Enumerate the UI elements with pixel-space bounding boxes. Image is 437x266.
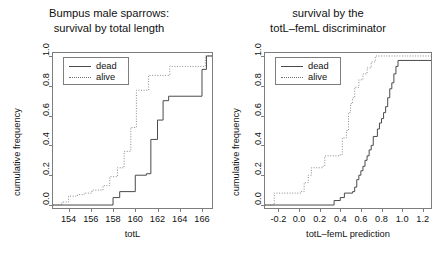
- legend-label-alive: alive: [96, 72, 115, 82]
- x-tick: [423, 209, 424, 212]
- title-line-2: survival by total length: [0, 21, 218, 36]
- y-tick: [261, 175, 264, 176]
- legend-right: dead alive: [275, 57, 341, 85]
- y-tick: [49, 175, 52, 176]
- x-tick: [91, 209, 92, 212]
- x-tick: [135, 209, 136, 212]
- x-tick: [69, 209, 70, 212]
- x-tick: [158, 209, 159, 212]
- legend-label-alive: alive: [308, 72, 327, 82]
- legend-key-dead-icon: [281, 66, 303, 67]
- panel-left: Bumpus male sparrows: survival by total …: [0, 0, 218, 266]
- legend-entry-dead-right: dead: [281, 61, 329, 71]
- panel-left-title: Bumpus male sparrows: survival by total …: [0, 6, 218, 36]
- panel-right: survival by the totL–femL discriminator …: [219, 0, 437, 266]
- y-tick: [49, 205, 52, 206]
- legend-entry-alive-right: alive: [281, 72, 327, 82]
- x-tick: [113, 209, 114, 212]
- legend-entry-alive-left: alive: [69, 72, 115, 82]
- y-tick: [49, 145, 52, 146]
- y-tick: [261, 205, 264, 206]
- x-axis-label-right: totL–femL prediction: [264, 229, 432, 239]
- x-tick: [320, 209, 321, 212]
- x-tick: [402, 209, 403, 212]
- y-tick: [49, 56, 52, 57]
- panel-right-title: survival by the totL–femL discriminator: [219, 6, 437, 36]
- y-tick: [261, 56, 264, 57]
- legend-entry-dead-left: dead: [69, 61, 117, 71]
- title-line-2: totL–femL discriminator: [219, 21, 437, 36]
- x-tick: [278, 209, 279, 212]
- x-tick: [361, 209, 362, 212]
- y-axis-label-left: cumulative frequency: [12, 108, 22, 196]
- x-tick: [180, 209, 181, 212]
- x-tick: [299, 209, 300, 212]
- x-tick-label: 1.2: [403, 214, 437, 224]
- legend-left: dead alive: [63, 57, 129, 85]
- legend-key-dead-icon: [69, 66, 91, 67]
- x-tick: [340, 209, 341, 212]
- x-tick: [382, 209, 383, 212]
- y-axis-label-right: cumulative frequency: [231, 108, 241, 196]
- legend-label-dead: dead: [308, 61, 329, 71]
- y-tick: [261, 145, 264, 146]
- title-line-1: survival by the: [219, 6, 437, 21]
- legend-key-alive-icon: [69, 77, 91, 78]
- title-line-1: Bumpus male sparrows:: [0, 6, 218, 21]
- x-axis-label-left: totL: [52, 229, 213, 239]
- x-tick: [202, 209, 203, 212]
- legend-label-dead: dead: [96, 61, 117, 71]
- x-tick-label: 166: [182, 214, 222, 224]
- legend-key-alive-icon: [281, 77, 303, 78]
- figure-root: Bumpus male sparrows: survival by total …: [0, 0, 437, 266]
